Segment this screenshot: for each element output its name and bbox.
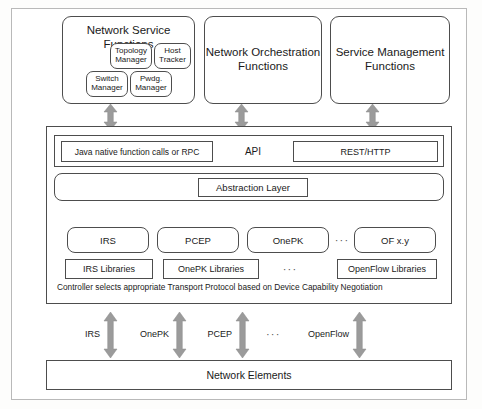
service-management-functions-block: Service Management Functions <box>330 16 450 104</box>
southbound-arrow-openflow <box>352 312 367 358</box>
southbound-ellipsis: ··· <box>266 328 281 340</box>
network-orchestration-functions-block: Network Orchestration Functions <box>204 16 322 104</box>
southbound-label-irs: IRS <box>70 329 100 339</box>
southbound-arrow-pcep <box>235 312 250 358</box>
service-management-functions-title: Service Management Functions <box>331 46 449 73</box>
api-label: API <box>218 141 288 162</box>
protocol-box-irs: IRS <box>67 227 149 253</box>
protocol-box-of-xy: OF x.y <box>354 227 436 253</box>
host-tracker-box: Host Tracker <box>154 43 191 69</box>
network-orchestration-functions-title: Network Orchestration Functions <box>205 46 321 73</box>
network-service-functions-block: Network Service Functions Topology Manag… <box>62 16 195 104</box>
java-native-rpc-box: Java native function calls or RPC <box>61 141 213 162</box>
rest-http-box: REST/HTTP <box>293 141 438 162</box>
library-box-onepk: OnePK Libraries <box>163 259 259 279</box>
abstraction-layer-box: Abstraction Layer <box>198 178 308 197</box>
southbound-label-openflow: OpenFlow <box>293 329 349 339</box>
library-ellipsis: ··· <box>275 259 305 279</box>
protocol-box-onepk: OnePK <box>247 227 329 253</box>
library-box-openflow: OpenFlow Libraries <box>337 259 437 279</box>
southbound-label-onepk: OnePK <box>124 329 169 339</box>
library-box-irs: IRS Libraries <box>65 259 153 279</box>
controller-caption: Controller selects appropriate Transport… <box>57 283 442 293</box>
southbound-arrow-irs <box>103 312 118 358</box>
protocol-box-pcep: PCEP <box>157 227 239 253</box>
abstraction-layer-row: Abstraction Layer <box>54 173 444 201</box>
network-elements-box: Network Elements <box>46 360 452 390</box>
api-row: Java native function calls or RPC API RE… <box>54 135 444 167</box>
controller-container: Java native function calls or RPC API RE… <box>46 126 452 304</box>
forwarding-manager-box: Pwdg. Manager <box>130 71 172 97</box>
protocol-ellipsis: ··· <box>331 227 353 253</box>
sdn-architecture-diagram: Network Service Functions Topology Manag… <box>0 0 482 409</box>
southbound-arrow-onepk <box>172 312 187 358</box>
switch-manager-box: Switch Manager <box>86 71 128 97</box>
topology-manager-box: Topology Manager <box>110 43 152 69</box>
network-elements-label: Network Elements <box>206 369 291 381</box>
southbound-label-pcep: PCEP <box>192 329 232 339</box>
